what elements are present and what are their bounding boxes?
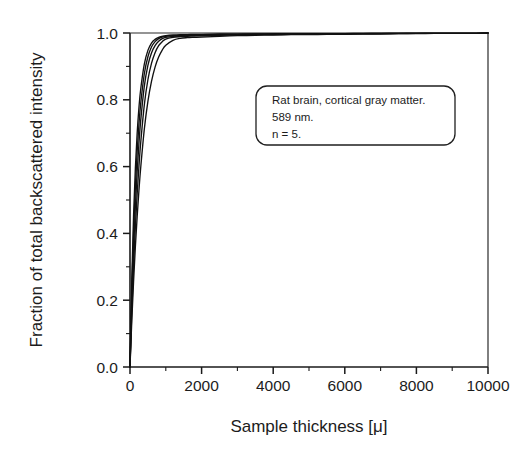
x-tick-label: 8000	[399, 377, 434, 394]
annotation-line-3: n = 5.	[272, 128, 301, 140]
x-axis-tick-labels: 0200040006000800010000	[126, 377, 510, 394]
y-tick-label: 0.0	[96, 359, 118, 376]
annotation-line-1: Rat brain, cortical gray matter.	[272, 94, 425, 106]
annotation-line-2: 589 nm.	[272, 111, 314, 123]
curve-sample-5	[130, 33, 488, 367]
y-tick-label: 0.8	[96, 91, 118, 108]
x-tick-label: 6000	[328, 377, 363, 394]
y-tick-label: 0.4	[96, 225, 118, 242]
y-axis-title: Fraction of total backscattered intensit…	[27, 52, 46, 347]
curve-sample-1	[130, 33, 488, 367]
data-curves	[130, 33, 488, 367]
chart-figure: 0.00.20.40.60.81.0 020004000600080001000…	[0, 0, 532, 458]
curve-sample-4	[130, 33, 488, 367]
x-tick-label: 0	[126, 377, 135, 394]
x-axis-title: Sample thickness [μ]	[230, 417, 387, 436]
x-tick-label: 2000	[184, 377, 219, 394]
y-tick-label: 0.6	[96, 158, 118, 175]
plot-frame	[130, 33, 488, 367]
curve-sample-2	[130, 33, 488, 367]
y-tick-label: 1.0	[96, 25, 118, 42]
x-tick-label: 10000	[466, 377, 509, 394]
y-axis-tick-labels: 0.00.20.40.60.81.0	[96, 25, 118, 376]
x-tick-label: 4000	[256, 377, 291, 394]
chart-svg: 0.00.20.40.60.81.0 020004000600080001000…	[0, 0, 532, 458]
annotation-box: Rat brain, cortical gray matter. 589 nm.…	[256, 86, 455, 145]
y-tick-label: 0.2	[96, 292, 118, 309]
curve-sample-3	[130, 33, 488, 367]
